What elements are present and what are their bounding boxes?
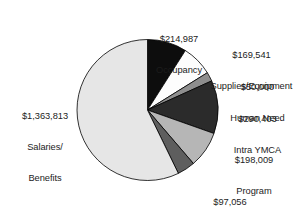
- pie-label-salaries-benefits: $1,363,813 Salaries/ Benefits: [2, 90, 88, 204]
- pie-label-communication: $97,056 Communication: [172, 176, 288, 209]
- pie-label-communication-amount: $97,056: [172, 197, 288, 207]
- pie-label-supplies-equipment-amount: $169,541: [196, 50, 307, 60]
- pie-label-intra-ymca-amount: $290,403: [211, 114, 304, 124]
- pie-label-human-need-amount: $50,000: [211, 82, 304, 92]
- pie-label-salaries-benefits-amount: $1,363,813: [2, 111, 88, 121]
- pie-label-salaries-benefits-name1: Salaries/: [2, 142, 88, 152]
- pie-label-salaries-benefits-name2: Benefits: [2, 173, 88, 183]
- pie-chart-figure: $214,987 Occupancy $169,541 Supplies/Equ…: [0, 0, 307, 209]
- pie-label-program-operation-amount: $198,009: [206, 155, 302, 165]
